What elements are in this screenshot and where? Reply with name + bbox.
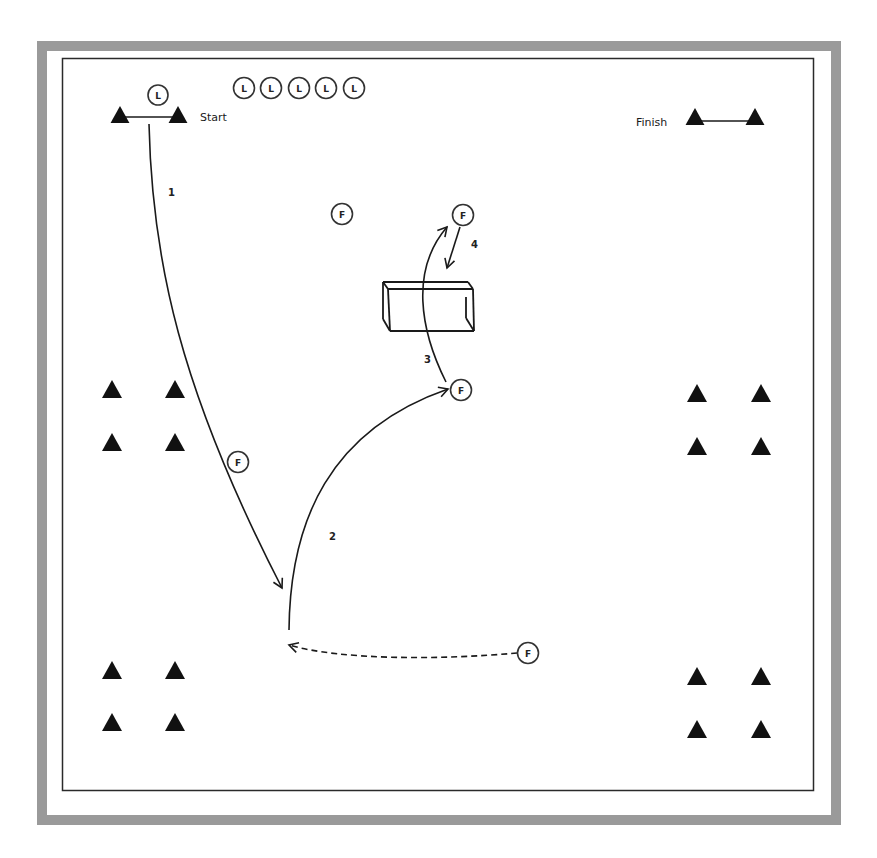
cone-icon [687,437,707,455]
player-letter: L [155,91,161,101]
field-frame [42,46,836,820]
player-letter: F [235,458,241,468]
player-follower: F [451,380,472,401]
path-labels: 1 2 3 4 [168,187,478,542]
follower-players: F F F F F [228,204,539,664]
leader-players: L L L L L L [148,78,365,106]
cone-icon [102,433,122,451]
cones-right-bottom [687,667,771,738]
cones-right-middle [687,384,771,455]
cones-left-bottom [102,661,185,731]
player-letter: L [296,84,302,94]
finish-label: Finish [636,116,667,129]
cone-icon [687,720,707,738]
path-2-arrow [289,389,448,630]
player-letter: F [339,210,345,220]
player-letter: F [525,649,531,659]
player-letter: F [458,386,464,396]
player-leader-start: L [148,85,168,105]
player-follower: F [453,205,474,226]
path-label-4: 4 [471,239,478,250]
player-leader-queue: L [289,78,310,99]
outer-gray-border [42,46,836,820]
cone-icon [169,106,188,123]
player-follower: F [518,643,539,664]
start-gate: Start [111,106,228,124]
player-leader-queue: L [316,78,337,99]
path-label-2: 2 [329,531,336,542]
player-letter: L [241,84,247,94]
cone-icon [102,661,122,679]
player-leader-queue: L [261,78,282,99]
cone-icon [102,380,122,398]
path-4-arrow [447,227,460,268]
cone-icon [687,384,707,402]
cone-icon [111,106,130,123]
path-label-1: 1 [168,187,175,198]
start-label: Start [200,111,228,124]
cone-icon [686,108,705,125]
dashed-pass-arrow [289,645,517,658]
cone-icon [165,433,185,451]
mini-goal [383,282,474,331]
player-letter: L [323,84,329,94]
cone-icon [751,720,771,738]
cone-icon [751,667,771,685]
cone-icon [102,713,122,731]
drill-diagram: Start Finish L L L L L L [0,0,877,858]
path-label-3: 3 [424,354,431,365]
cones-left-middle [102,380,185,451]
player-follower: F [228,452,249,473]
cone-icon [751,384,771,402]
cone-icon [165,380,185,398]
cone-icon [687,667,707,685]
player-letter: F [460,211,466,221]
cone-icon [751,437,771,455]
cone-icon [746,108,765,125]
player-letter: L [351,84,357,94]
cone-icon [165,713,185,731]
player-leader-queue: L [234,78,255,99]
finish-gate: Finish [636,108,764,129]
player-leader-queue: L [344,78,365,99]
cone-icon [165,661,185,679]
player-letter: L [268,84,274,94]
player-follower: F [332,204,353,225]
